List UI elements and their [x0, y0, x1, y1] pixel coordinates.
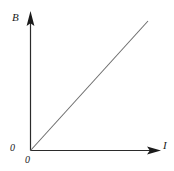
y-axis-label: B: [12, 12, 19, 23]
origin-label-left: 0: [10, 143, 15, 153]
plot-area: [0, 0, 174, 171]
x-axis-label: I: [163, 140, 167, 151]
data-line-b-vs-i: [31, 21, 149, 151]
origin-label-below: 0: [25, 155, 30, 165]
graph-figure: B I 0 0: [0, 0, 174, 171]
